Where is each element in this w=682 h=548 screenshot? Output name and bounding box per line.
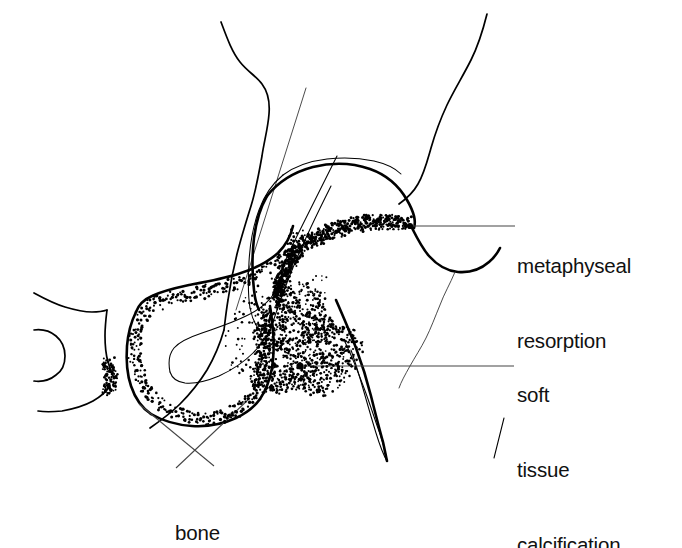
femoral-head-outline-left <box>253 196 268 310</box>
isolated-tissue-stroke <box>494 418 504 458</box>
leader-line-bone-left <box>139 404 214 466</box>
label-soft-tissue-calcification: soft tissue calcification <box>517 332 620 548</box>
bone-fragment-stipple <box>101 356 118 396</box>
femoral-shaft-inner <box>345 342 387 461</box>
figure-canvas: metaphyseal resorption soft tissue calci… <box>0 0 682 548</box>
lateral-soft-tissue-contour <box>399 272 455 388</box>
label-soft-line1: soft <box>517 382 620 407</box>
soft-tissue-contour-right <box>399 14 487 204</box>
upper-thin-contour <box>236 88 306 310</box>
bone-fragment-outline-lower <box>38 386 110 412</box>
label-bone-line1: bone <box>100 520 295 545</box>
trochanter-outline <box>412 228 500 272</box>
leader-dot-metaphyseal <box>407 223 413 229</box>
soft-tissue-contour-left-lower <box>150 330 224 428</box>
bone-fragment-outline <box>34 293 107 312</box>
leader-line-bone-right <box>176 398 250 468</box>
label-bone-resorption: bone resorption <box>100 470 295 548</box>
label-metaphyseal-line1: metaphyseal <box>517 253 631 278</box>
femoral-shaft-lateral <box>351 350 387 461</box>
label-soft-line3: calcification <box>517 532 620 548</box>
bone-resorption-stipple <box>127 228 305 426</box>
label-soft-line2: tissue <box>517 457 620 482</box>
soft-tissue-calcification-stipple <box>225 275 364 397</box>
bone-fragment-notch <box>34 330 65 382</box>
